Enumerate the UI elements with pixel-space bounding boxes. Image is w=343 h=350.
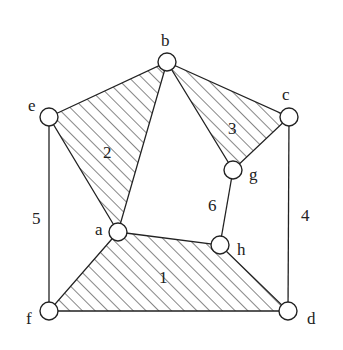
face-label-2: 2: [103, 143, 112, 162]
node-d: [279, 302, 297, 320]
face-label-3: 3: [228, 119, 237, 138]
node-label-a: a: [95, 220, 103, 239]
node-label-c: c: [282, 85, 290, 104]
face-1: [49, 232, 288, 311]
graph-diagram: 231546becgahfd: [0, 0, 343, 350]
face-label-1: 1: [159, 268, 168, 287]
edge-c-d: [288, 117, 289, 311]
shaded-faces: [49, 62, 289, 311]
node-b: [158, 53, 176, 71]
node-a: [109, 223, 127, 241]
node-label-d: d: [307, 309, 316, 328]
edge-label-4: 4: [301, 206, 310, 225]
node-g: [224, 161, 242, 179]
node-h: [211, 236, 229, 254]
edge-g-h: [220, 170, 233, 245]
node-label-g: g: [249, 165, 258, 184]
node-label-f: f: [26, 309, 32, 328]
node-label-e: e: [28, 96, 36, 115]
node-c: [280, 108, 298, 126]
edge-label-6: 6: [208, 196, 217, 215]
node-label-h: h: [237, 240, 246, 259]
node-f: [40, 302, 58, 320]
node-label-b: b: [161, 31, 170, 50]
node-e: [40, 108, 58, 126]
face-3: [167, 62, 289, 170]
edge-label-5: 5: [32, 209, 41, 228]
